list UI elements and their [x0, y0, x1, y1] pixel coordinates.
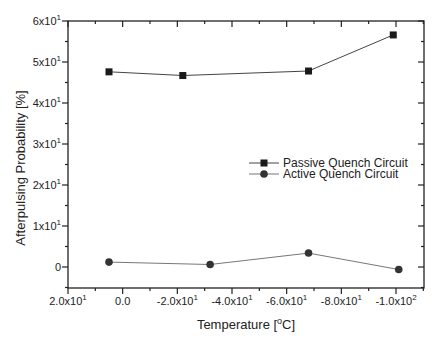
plot-border	[68, 21, 424, 288]
series-active-quench-circuit	[105, 249, 402, 273]
y-axis-label: Afterpulsing Probability [%]	[13, 90, 28, 245]
series-line	[109, 253, 399, 269]
circle-marker	[305, 249, 313, 257]
y-tick-label: 3x101	[33, 136, 62, 150]
x-axis-label: Temperature [oC]	[197, 316, 295, 332]
square-marker	[179, 72, 186, 79]
circle-marker	[206, 261, 214, 269]
circle-marker	[105, 258, 113, 266]
x-tick-label: -8.0x101	[321, 293, 363, 307]
y-axis-tick-labels: 01x1012x1013x1014x1015x1016x101	[33, 13, 62, 273]
y-tick-label: 0	[55, 261, 61, 273]
series-line	[109, 35, 393, 76]
circle-marker	[395, 266, 403, 274]
y-tick-label: 2x101	[33, 177, 62, 191]
legend-label: Active Quench Circuit	[283, 167, 399, 181]
square-marker	[390, 31, 397, 38]
legend-item: Active Quench Circuit	[249, 167, 399, 181]
series-layer	[105, 31, 402, 273]
legend-square-icon	[261, 160, 268, 167]
x-tick-label: 2.0x101	[49, 293, 87, 307]
plot-frame	[68, 21, 424, 288]
square-marker	[305, 68, 312, 75]
x-tick-label: 0.0	[115, 295, 130, 307]
legend: Passive Quench CircuitActive Quench Circ…	[249, 156, 408, 181]
square-marker	[106, 68, 113, 75]
afterpulsing-chart: 2.0x1010.0-2.0x101-4.0x101-6.0x101-8.0x1…	[0, 0, 439, 342]
legend-circle-icon	[260, 170, 268, 178]
x-tick-label: -4.0x101	[211, 293, 253, 307]
y-tick-label: 1x101	[33, 218, 62, 232]
x-tick-label: -6.0x101	[266, 293, 308, 307]
x-axis-tick-labels: 2.0x1010.0-2.0x101-4.0x101-6.0x101-8.0x1…	[49, 293, 417, 307]
series-passive-quench-circuit	[106, 31, 397, 79]
x-tick-label: -2.0x101	[157, 293, 199, 307]
x-tick-label: -1.0x102	[375, 293, 417, 307]
y-tick-label: 5x101	[33, 54, 62, 68]
y-tick-label: 4x101	[33, 95, 62, 109]
y-tick-label: 6x101	[33, 13, 62, 27]
